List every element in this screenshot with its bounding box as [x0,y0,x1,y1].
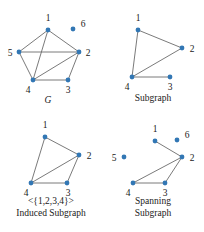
vertex-label-4: 4 [125,82,130,92]
graph-edge-1-2 [155,141,182,157]
graph-vertex-2[interactable] [180,46,185,51]
graph-edge-1-2 [48,30,79,52]
graph-vertex-1[interactable] [43,135,48,140]
graph-vertex-3[interactable] [163,181,168,186]
vertex-label-1: 1 [46,13,51,23]
graph-vertex-2[interactable] [180,155,185,160]
graph-vertex-4[interactable] [31,78,36,83]
vertex-label-2: 2 [87,151,92,161]
panel-caption-subgraph-line-0: Subgraph [135,93,172,103]
graph-panel-g: 123456G [0,0,102,116]
graph-edge-2-3 [67,155,79,183]
graph-drawing-subgraph: 1234Subgraph [102,0,204,116]
graph-vertex-1[interactable] [136,28,141,33]
graph-vertex-3[interactable] [168,75,173,80]
graph-panel-induced: 1234<{1,2,3,4}>Induced Subgraph [0,116,102,232]
vertex-label-6: 6 [81,19,86,29]
vertex-label-2: 2 [190,44,195,54]
graph-vertex-1[interactable] [46,28,51,33]
graph-vertex-3[interactable] [65,181,70,186]
graph-vertex-6[interactable] [175,138,180,143]
panel-caption-induced-line-1: Induced Subgraph [16,208,86,218]
vertex-label-5: 5 [8,48,13,58]
vertex-label-1: 1 [43,120,48,130]
graph-edge-1-5 [19,30,48,52]
graph-vertex-4[interactable] [131,181,136,186]
graph-vertex-4[interactable] [130,75,135,80]
graph-vertex-6[interactable] [71,27,76,32]
vertex-label-1: 1 [153,124,158,134]
graph-edge-2-3 [68,52,79,80]
graph-edge-5-4 [19,52,33,80]
graph-vertex-2[interactable] [77,153,82,158]
graph-vertex-5[interactable] [17,50,22,55]
graph-edge-2-4 [133,157,182,183]
vertex-label-6: 6 [185,130,190,140]
vertex-label-2: 2 [190,153,195,163]
graph-vertex-3[interactable] [66,78,71,83]
graph-vertex-5[interactable] [122,155,127,160]
graph-drawing-g: 123456G [0,0,102,116]
graph-figure: 123456G1234Subgraph1234<{1,2,3,4}>Induce… [0,0,204,232]
vertex-label-4: 4 [26,85,31,95]
vertex-label-2: 2 [86,48,91,58]
graph-edge-2-3 [165,157,182,183]
panel-caption-spanning-line-1: Subgraph [135,208,172,218]
graph-panel-spanning: 123456SpanningSubgraph [102,116,204,232]
graph-edge-1-2 [45,137,79,155]
vertex-label-1: 1 [136,13,141,23]
graph-drawing-induced: 1234<{1,2,3,4}>Induced Subgraph [0,116,102,232]
graph-edge-1-2 [138,30,182,48]
graph-vertex-1[interactable] [153,139,158,144]
graph-panel-subgraph: 1234Subgraph [102,0,204,116]
panel-caption-induced-line-0: <{1,2,3,4}> [28,196,74,206]
panel-caption-g-line-0: G [45,95,52,105]
vertex-label-3: 3 [168,82,173,92]
vertex-label-4: 4 [126,188,131,198]
graph-drawing-spanning: 123456SpanningSubgraph [102,116,204,232]
graph-edge-2-4 [132,48,182,77]
graph-vertex-4[interactable] [29,181,34,186]
panel-caption-spanning-line-0: Spanning [135,196,171,206]
graph-edge-1-4 [132,30,138,77]
graph-vertex-2[interactable] [77,50,82,55]
vertex-label-5: 5 [112,153,117,163]
vertex-label-3: 3 [66,85,71,95]
